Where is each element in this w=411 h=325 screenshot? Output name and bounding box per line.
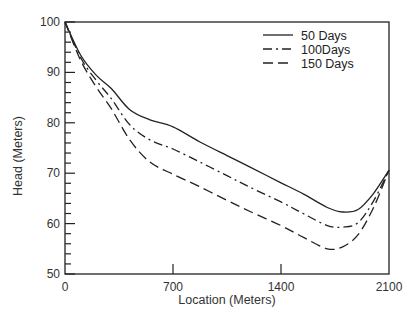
y-axis-label: Head (Meters) xyxy=(11,116,25,196)
x-tick-label: 700 xyxy=(163,280,183,294)
x-tick-label: 2100 xyxy=(376,280,403,294)
x-axis-ticks: 070014002100 xyxy=(62,264,403,294)
legend-label: 150 Days xyxy=(301,57,354,71)
y-tick-label: 80 xyxy=(47,116,61,130)
head-vs-location-chart: 5060708090100 070014002100 Location (Met… xyxy=(0,0,411,325)
y-tick-label: 50 xyxy=(47,267,61,281)
y-tick-label: 60 xyxy=(47,217,61,231)
legend: 50 Days100Days150 Days xyxy=(263,29,354,71)
y-tick-label: 100 xyxy=(40,15,60,29)
x-tick-label: 0 xyxy=(62,280,69,294)
legend-label: 50 Days xyxy=(301,29,347,43)
x-axis-label: Location (Meters) xyxy=(178,293,275,307)
y-tick-label: 70 xyxy=(47,166,61,180)
y-axis-ticks: 5060708090100 xyxy=(40,15,75,281)
x-tick-label: 1400 xyxy=(268,280,295,294)
y-tick-label: 90 xyxy=(47,65,61,79)
legend-label: 100Days xyxy=(301,43,350,57)
